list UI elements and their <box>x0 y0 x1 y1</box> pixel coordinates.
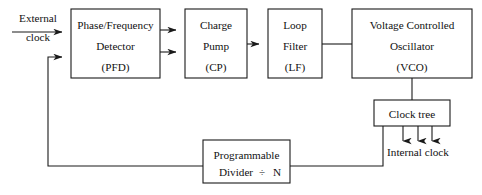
lf-label-line3: (LF) <box>285 61 306 74</box>
block-phase-frequency-detector[interactable]: Phase/Frequency Detector (PFD) <box>71 9 160 78</box>
vco-label-line1: Voltage Controlled <box>370 19 455 31</box>
external-clock-label-line2: clock <box>26 31 51 43</box>
cp-label-line1: Charge <box>200 19 232 31</box>
wire-clock-tree-to-divider <box>290 126 383 166</box>
block-voltage-controlled-oscillator[interactable]: Voltage Controlled Oscillator (VCO) <box>352 9 472 78</box>
cp-label-line3: (CP) <box>205 61 226 74</box>
divider-label-line1: Programmable <box>214 149 280 161</box>
vco-label-line2: Oscillator <box>390 40 434 52</box>
cp-label-line2: Pump <box>203 40 230 52</box>
lf-label-line1: Loop <box>283 19 307 31</box>
pll-block-diagram: Phase/Frequency Detector (PFD) Charge Pu… <box>0 0 482 195</box>
block-clock-tree[interactable]: Clock tree <box>374 100 450 126</box>
diagram-canvas: Phase/Frequency Detector (PFD) Charge Pu… <box>0 0 482 195</box>
internal-clock-label: Internal clock <box>387 146 449 158</box>
pfd-label-line2: Detector <box>96 40 135 52</box>
vco-label-line3: (VCO) <box>396 61 427 74</box>
block-loop-filter[interactable]: Loop Filter (LF) <box>268 9 322 78</box>
divide-icon: ÷ <box>259 166 265 178</box>
divider-label-line2: Divider <box>219 166 253 178</box>
external-clock-label-line1: External <box>19 12 57 24</box>
clock-tree-label: Clock tree <box>389 108 435 120</box>
pfd-label-line3: (PFD) <box>102 61 130 74</box>
block-charge-pump[interactable]: Charge Pump (CP) <box>185 9 247 78</box>
block-programmable-divider[interactable]: Programmable Divider ÷ N <box>203 140 290 183</box>
lf-label-line2: Filter <box>283 40 308 52</box>
pfd-label-line1: Phase/Frequency <box>77 19 154 31</box>
divider-label-n: N <box>273 166 281 178</box>
